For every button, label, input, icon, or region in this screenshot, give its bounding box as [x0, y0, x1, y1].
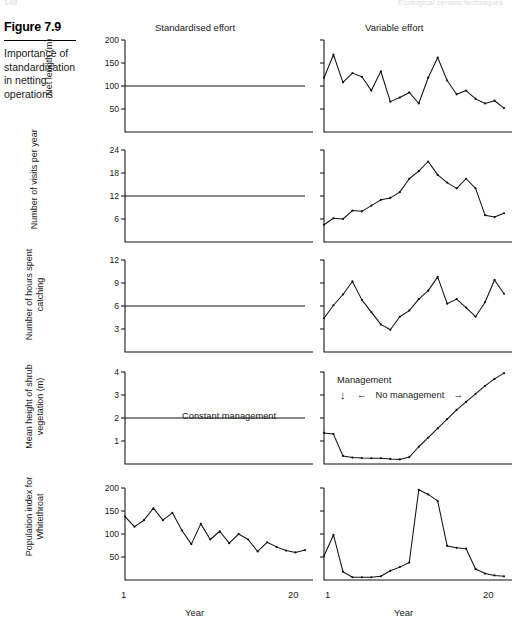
data-point — [380, 575, 382, 577]
data-point — [361, 210, 363, 212]
data-point — [446, 418, 448, 420]
ylabel-hours: Number of hours spent catching — [24, 240, 45, 350]
data-point — [427, 160, 429, 162]
data-point — [503, 372, 505, 374]
data-point — [408, 310, 410, 312]
running-head-left: 148 — [4, 0, 17, 7]
data-point — [238, 533, 240, 535]
data-point — [408, 178, 410, 180]
plot-net-length-variable — [318, 38, 516, 144]
plot-axes — [324, 372, 512, 464]
data-point — [342, 293, 344, 295]
column-header-standardised: Standardised effort — [155, 22, 235, 33]
data-point — [370, 90, 372, 92]
panel-hours-standardised: 36912 — [95, 258, 317, 364]
data-point — [361, 576, 363, 578]
data-point — [437, 276, 439, 278]
data-point — [124, 515, 126, 517]
plot-whitethroat-standardised: 50100150200 — [95, 486, 317, 592]
ytick-label: 50 — [109, 552, 119, 562]
data-point — [200, 523, 202, 525]
data-point — [456, 298, 458, 300]
series-line — [324, 55, 504, 108]
data-point — [493, 378, 495, 380]
arrow-right-icon: → — [453, 390, 462, 400]
annotation-no-management: ← No management → — [357, 390, 463, 400]
plot-axes — [324, 40, 512, 132]
data-point — [427, 77, 429, 79]
plot-hours-variable — [318, 258, 516, 364]
plot-visits-variable — [318, 148, 516, 254]
data-point — [304, 549, 306, 551]
series-line — [324, 373, 504, 459]
data-point — [361, 457, 363, 459]
data-point — [370, 311, 372, 313]
ytick-label: 6 — [114, 301, 119, 311]
data-point — [493, 574, 495, 576]
data-point — [465, 90, 467, 92]
ytick-label: 6 — [114, 214, 119, 224]
caption-divider — [4, 40, 76, 41]
data-point — [351, 280, 353, 282]
data-point — [332, 304, 334, 306]
plot-hours-standardised: 36912 — [95, 258, 317, 364]
data-point — [474, 98, 476, 100]
data-point — [408, 561, 410, 563]
data-point — [162, 519, 164, 521]
data-point — [370, 204, 372, 206]
data-point — [456, 93, 458, 95]
ytick-label: 200 — [105, 35, 120, 45]
ytick-label: 1 — [114, 436, 119, 446]
data-point — [342, 571, 344, 573]
data-point — [493, 279, 495, 281]
data-point — [389, 329, 391, 331]
ytick-label: 4 — [114, 367, 119, 377]
data-point — [437, 174, 439, 176]
ytick-label: 9 — [114, 278, 119, 288]
data-point — [465, 178, 467, 180]
ytick-label: 3 — [114, 390, 119, 400]
ytick-label: 200 — [105, 483, 120, 493]
ylabel-whitethroat: Population index for Whitethroat — [24, 462, 45, 572]
data-point — [323, 317, 325, 319]
ytick-label: 12 — [109, 191, 119, 201]
data-point — [399, 316, 401, 318]
running-head-right: Ecological census techniques — [398, 0, 503, 7]
data-point — [484, 102, 486, 104]
data-point — [342, 218, 344, 220]
data-point — [418, 170, 420, 172]
data-point — [370, 576, 372, 578]
ytick-label: 150 — [105, 58, 120, 68]
data-point — [247, 538, 249, 540]
ytick-label: 18 — [109, 168, 119, 178]
series-line — [125, 508, 305, 552]
data-point — [408, 91, 410, 93]
data-point — [332, 54, 334, 56]
series-line — [324, 490, 504, 577]
data-point — [380, 199, 382, 201]
data-point — [399, 191, 401, 193]
data-point — [418, 446, 420, 448]
data-point — [285, 549, 287, 551]
data-point — [332, 534, 334, 536]
data-point — [503, 107, 505, 109]
data-point — [418, 102, 420, 104]
data-point — [219, 530, 221, 532]
panel-shrub-standardised: 1234 — [95, 370, 317, 476]
data-point — [399, 96, 401, 98]
data-point — [484, 214, 486, 216]
data-point — [294, 551, 296, 553]
plot-axes — [324, 150, 512, 242]
data-point — [437, 56, 439, 58]
xtick-left-start: 1 — [121, 589, 126, 600]
data-point — [503, 575, 505, 577]
ytick-label: 100 — [105, 81, 120, 91]
data-point — [465, 401, 467, 403]
data-point — [427, 436, 429, 438]
plot-visits-standardised: 6121824 — [95, 148, 317, 254]
data-point — [275, 546, 277, 548]
xtick-right-end: 20 — [483, 589, 494, 600]
data-point — [351, 576, 353, 578]
data-point — [427, 290, 429, 292]
